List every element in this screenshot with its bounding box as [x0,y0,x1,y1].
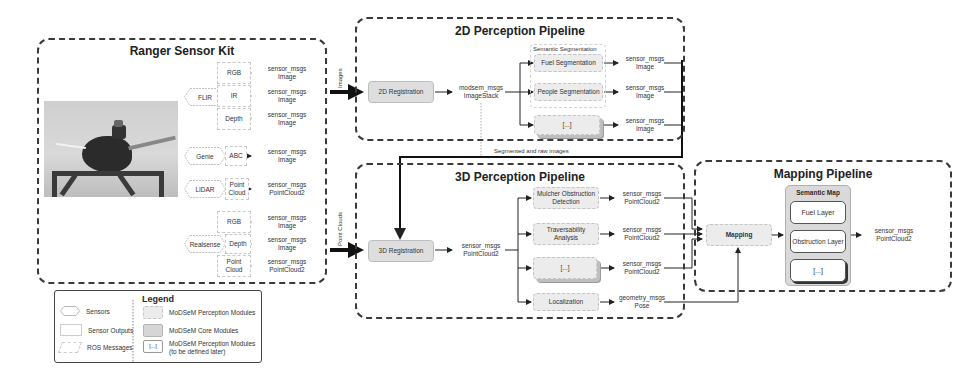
semantic-segmentation-label: Semantic Segmentation [533,46,597,52]
semantic-map-title: Semantic Map [786,189,850,196]
images-connection-label: Images [337,68,343,88]
group-title: 2D Perception Pipeline [357,24,683,38]
future-module-icon: [...] [143,340,163,353]
fuel-segmentation-module: Fuel Segmentation [534,54,603,72]
ros-message-realsense-rgb: sensor_msgs Image [259,212,315,232]
ros-message-flir-rgb: sensor_msgs Image [259,63,315,83]
parallelogram-icon [58,342,82,353]
point-clouds-connection-label: Point Clouds [337,212,343,246]
imagestack-message: modsem_msgs ImageStack [458,82,504,102]
fuel-layer: Fuel Layer [790,201,846,224]
future-layer: [...] [790,259,846,282]
traversability-message: sensor_msgs PointCloud2 [620,224,664,244]
legend-ros-messages: ROS Messages [60,342,133,353]
mapping-module: Mapping [706,224,772,246]
traversability-analysis-module: Traversability Analysis [533,223,599,245]
ros-message-lidar-pointcloud: sensor_msgs PointCloud2 [259,179,315,199]
sensor-output-genie-abc: ABC [225,146,247,166]
group-title: 3D Perception Pipeline [357,170,683,184]
perception-module-icon [143,306,163,319]
legend-title: Legend [55,294,261,304]
pointcloud-message: sensor_msgs PointCloud2 [458,240,504,260]
future-2d-module: [...] [534,115,600,135]
people-segmentation-module: People Segmentation [534,83,603,101]
legend-sensor-outputs: Sensor Outputs [60,324,133,336]
people-segmentation-message: sensor_msgs Image [624,83,666,101]
sensor-output-flir-rgb: RGB [217,62,251,84]
ros-message-realsense-pointcloud: sensor_msgs PointCloud2 [259,256,315,276]
ros-message-flir-ir: sensor_msgs Image [259,86,315,106]
future-3d-message: sensor_msgs PointCloud2 [620,258,664,278]
legend-core-modules: MoDSeM Core Modules [143,324,238,337]
future-3d-module: [...] [533,257,597,279]
legend-future-modules: [...] MoDSeM Perception Modules (to be d… [143,340,255,356]
future-2d-message: sensor_msgs Image [624,116,666,134]
localization-module: Localization [533,293,599,311]
sensor-output-flir-depth: Depth [217,108,251,130]
segmented-images-label: Segmented and raw images [494,148,569,154]
group-title: Mapping Pipeline [696,167,950,181]
localization-message: geometry_msgs Pose [620,292,664,312]
2d-registration-module: 2D Registration [368,81,434,103]
robot-with-sensor-kit-photo [44,101,178,197]
sensor-realsense: Realsense [184,235,226,253]
mapping-output-message: sensor_msgs PointCloud2 [866,225,922,245]
sensor-output-flir-ir: IR [217,85,251,107]
legend-sensors: Sensors [60,306,110,316]
sensor-output-realsense-depth: Depth [225,234,251,254]
rectangle-icon [60,324,82,336]
legend-perception-modules: MoDSeM Perception Modules [143,306,255,319]
core-module-icon [143,324,163,337]
sensor-output-realsense-rgb: RGB [217,211,251,233]
ros-message-genie-abc: sensor_msgs Image [259,146,315,166]
mulcher-obstruction-message: sensor_msgs PointCloud2 [620,188,664,208]
group-title: Ranger Sensor Kit [39,44,325,58]
sensor-output-realsense-pointcloud: Point Cloud [217,255,251,277]
sensor-genie: Genie [184,147,226,165]
3d-registration-module: 3D Registration [368,240,434,262]
ros-message-flir-depth: sensor_msgs Image [259,109,315,129]
fuel-segmentation-message: sensor_msgs Image [624,54,666,72]
obstruction-layer: Obstruction Layer [790,230,846,253]
hexagon-icon [60,306,80,316]
sensor-output-lidar-pointcloud: Point Cloud [225,178,249,200]
mulcher-obstruction-detection-module: Mulcher Obstruction Detection [533,187,599,209]
ros-message-realsense-depth: sensor_msgs Image [259,234,315,254]
sensor-lidar: LIDAR [184,180,226,198]
